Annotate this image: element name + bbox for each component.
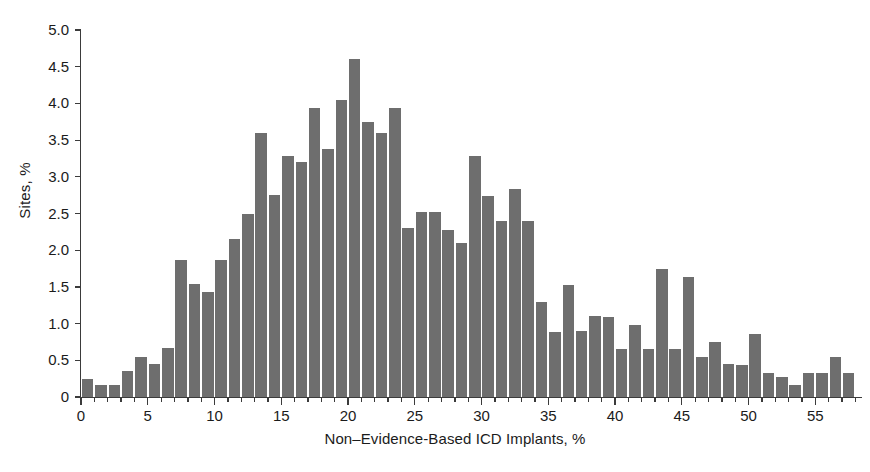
x-tick-minor [588, 397, 589, 402]
x-tick-minor [841, 397, 842, 402]
x-tick-minor [428, 397, 429, 402]
x-axis-title: Non–Evidence-Based ICD Implants, % [0, 430, 870, 447]
histogram-bar [82, 379, 94, 397]
x-tick-minor [775, 397, 776, 402]
histogram-bar [442, 230, 454, 397]
y-tick-label: 0.5 [9, 352, 69, 367]
y-tick-label: 0 [9, 389, 69, 404]
histogram-bar [830, 357, 842, 397]
histogram-bar [109, 385, 121, 397]
x-tick-minor [187, 397, 188, 402]
histogram-bar [122, 371, 134, 397]
x-tick-minor [654, 397, 655, 402]
histogram-bar [776, 377, 788, 397]
x-tick-minor [294, 397, 295, 402]
histogram-bar [629, 325, 641, 397]
histogram-figure: Sites, % 00.51.01.52.02.53.03.54.04.55.0… [0, 0, 870, 472]
histogram-bar [362, 122, 374, 397]
x-tick-minor [574, 397, 575, 402]
y-tick-label: 3.0 [9, 169, 69, 184]
x-tick-minor [120, 397, 121, 402]
histogram-bar [349, 59, 361, 397]
x-tick-minor [201, 397, 202, 402]
histogram-bar [175, 260, 187, 397]
x-tick-label: 40 [595, 408, 635, 423]
histogram-bar [416, 212, 428, 397]
histogram-bar [282, 156, 294, 397]
x-tick-minor [708, 397, 709, 402]
histogram-bar [496, 221, 508, 397]
histogram-bar [683, 277, 695, 397]
x-tick-minor [601, 397, 602, 402]
x-tick-label: 50 [729, 408, 769, 423]
histogram-bar [469, 156, 481, 397]
x-tick-major [414, 397, 415, 405]
x-tick-label: 20 [328, 408, 368, 423]
histogram-bar [696, 357, 708, 397]
histogram-bar [616, 349, 628, 397]
histogram-bar [255, 133, 267, 397]
x-tick-major [281, 397, 282, 405]
x-tick-major [147, 397, 148, 405]
x-tick-minor [721, 397, 722, 402]
x-tick-minor [441, 397, 442, 402]
histogram-bar [429, 212, 441, 397]
x-tick-minor [307, 397, 308, 402]
x-tick-minor [334, 397, 335, 402]
histogram-bar [709, 342, 721, 397]
histogram-bar [643, 349, 655, 397]
histogram-bar [723, 364, 735, 397]
histogram-bar [242, 214, 254, 398]
x-tick-minor [668, 397, 669, 402]
histogram-bar [803, 373, 815, 397]
x-tick-minor [267, 397, 268, 402]
histogram-bars [81, 30, 862, 397]
histogram-bar [843, 373, 855, 397]
x-tick-minor [561, 397, 562, 402]
x-tick-minor [94, 397, 95, 402]
histogram-bar [749, 334, 761, 397]
histogram-bar [669, 349, 681, 397]
y-tick-label: 1.5 [9, 279, 69, 294]
x-tick-minor [761, 397, 762, 402]
histogram-bar [576, 331, 588, 397]
x-tick-major [681, 397, 682, 405]
x-tick-minor [641, 397, 642, 402]
histogram-bar [376, 133, 388, 397]
histogram-bar [162, 348, 174, 397]
histogram-bar [229, 239, 241, 397]
x-tick-minor [735, 397, 736, 402]
x-tick-minor [241, 397, 242, 402]
x-tick-minor [534, 397, 535, 402]
x-tick-minor [855, 397, 856, 402]
x-tick-minor [468, 397, 469, 402]
x-tick-minor [134, 397, 135, 402]
x-tick-major [614, 397, 615, 405]
x-tick-label: 0 [61, 408, 101, 423]
histogram-bar [763, 373, 775, 397]
x-tick-minor [254, 397, 255, 402]
x-axis-title-text: Non–Evidence-Based ICD Implants, % [324, 430, 585, 447]
y-axis-title: Sites, % [16, 131, 33, 251]
histogram-bar [603, 317, 615, 397]
x-tick-major [548, 397, 549, 405]
histogram-bar [656, 269, 668, 397]
histogram-bar [563, 285, 575, 397]
x-tick-major [214, 397, 215, 405]
histogram-bar [336, 100, 348, 397]
x-tick-label: 45 [662, 408, 702, 423]
histogram-bar [215, 260, 227, 397]
histogram-bar [95, 385, 107, 397]
histogram-bar [296, 162, 308, 397]
histogram-bar [536, 302, 548, 397]
histogram-bar [589, 316, 601, 397]
x-tick-label: 30 [462, 408, 502, 423]
x-tick-major [481, 397, 482, 405]
x-tick-minor [695, 397, 696, 402]
histogram-bar [189, 284, 201, 397]
histogram-bar [482, 196, 494, 397]
histogram-bar [736, 365, 748, 397]
histogram-bar [789, 385, 801, 397]
histogram-bar [816, 373, 828, 397]
x-tick-label: 5 [128, 408, 168, 423]
